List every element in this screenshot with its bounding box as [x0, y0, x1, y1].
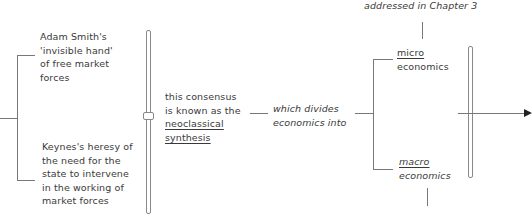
node-micro-term: micro — [397, 47, 424, 58]
entry-line — [0, 118, 17, 119]
left-bracket-top-arm — [17, 55, 35, 56]
connector-divides-bracket — [355, 113, 373, 114]
node-chapter-note: addressed in Chapter 3 — [364, 0, 504, 13]
continuation-arrow-line — [458, 113, 524, 114]
connector-consensus-divides — [250, 113, 268, 114]
merge-bar-1-knob — [143, 112, 154, 120]
left-bracket-bottom-arm — [17, 180, 35, 181]
node-chapter-note-text: addressed in Chapter 3 — [364, 0, 477, 11]
node-divides-text: which divides economics into — [273, 103, 346, 128]
node-consensus-term-line2: synthesis — [165, 132, 211, 143]
node-micro: micro economics — [397, 46, 467, 73]
right-bracket-vertical — [373, 59, 374, 169]
node-consensus-prefix: this consensus is known as the — [165, 91, 241, 116]
node-keynes-text: Keynes's heresy of the need for the stat… — [42, 141, 133, 206]
node-adam-smith: Adam Smith's 'invisible hand' of free ma… — [40, 30, 120, 84]
node-macro-suffix: economics — [399, 170, 451, 181]
merge-bar-2 — [468, 46, 473, 178]
node-macro: macro economics — [399, 155, 469, 182]
connector-macro-below — [427, 188, 428, 206]
left-bracket-vertical — [17, 55, 18, 180]
connector-micro-chapter — [422, 22, 423, 39]
node-consensus-term-line1: neoclassical — [165, 118, 224, 129]
continuation-arrowhead-icon — [524, 109, 532, 117]
merge-bar-1 — [146, 30, 151, 214]
node-macro-term: macro — [399, 156, 430, 167]
node-micro-suffix: economics — [397, 61, 449, 72]
node-adam-smith-text: Adam Smith's 'invisible hand' of free ma… — [40, 31, 113, 83]
node-keynes: Keynes's heresy of the need for the stat… — [42, 140, 137, 208]
node-divides: which divides economics into — [273, 102, 348, 129]
right-bracket-bottom-arm — [373, 169, 393, 170]
node-consensus: this consensus is known as the neoclassi… — [165, 90, 245, 144]
right-bracket-top-arm — [373, 59, 393, 60]
